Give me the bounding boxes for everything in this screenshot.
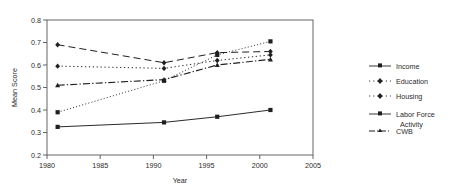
data-point-square <box>162 120 166 124</box>
data-point-square <box>56 125 60 129</box>
x-tick-label: 1985 <box>92 161 108 170</box>
data-point-square <box>268 108 272 112</box>
legend-marker-diamond <box>377 78 382 84</box>
legend-label-labor-force: Labor Force <box>396 110 435 119</box>
chart-svg: 0.8 0.7 0.6 0.5 0.4 0.3 0.2 Mean Score 1… <box>0 0 462 195</box>
x-axis-title: Year <box>173 176 188 185</box>
y-tick-label: 0.7 <box>31 38 41 47</box>
data-point-square <box>215 53 219 57</box>
y-axis-ticks <box>43 20 47 155</box>
legend-item-income[interactable]: Income <box>369 62 420 71</box>
plot-area-frame <box>47 20 313 155</box>
y-tick-label: 0.4 <box>31 106 41 115</box>
legend-label-housing: Housing <box>396 92 422 101</box>
chart-legend: Income Education Housing Labor Force Act… <box>369 62 435 136</box>
x-tick-label: 2000 <box>252 161 268 170</box>
y-tick-label: 0.6 <box>31 61 41 70</box>
y-axis-tick-labels: 0.8 0.7 0.6 0.5 0.4 0.3 0.2 <box>31 16 41 160</box>
x-tick-label: 1980 <box>39 161 55 170</box>
x-tick-label: 1990 <box>145 161 161 170</box>
legend-item-education[interactable]: Education <box>369 77 428 86</box>
y-tick-label: 0.3 <box>31 128 41 137</box>
data-point-square <box>268 39 272 43</box>
legend-marker-square <box>378 111 382 115</box>
x-axis-ticks <box>47 155 313 159</box>
data-point-square <box>215 115 219 119</box>
y-tick-label: 0.5 <box>31 83 41 92</box>
legend-label-education: Education <box>396 77 428 86</box>
legend-item-housing[interactable]: Housing <box>369 92 422 101</box>
data-point-square <box>56 110 60 114</box>
legend-marker-diamond <box>377 93 382 99</box>
y-axis-title: Mean Score <box>10 68 19 107</box>
legend-label-cwb: CWB <box>396 127 413 136</box>
legend-label-income: Income <box>396 62 420 71</box>
y-tick-label: 0.8 <box>31 16 41 25</box>
legend-marker-triangle <box>378 128 383 132</box>
legend-marker-square <box>378 63 382 67</box>
legend-item-cwb[interactable]: CWB <box>369 127 413 136</box>
y-tick-label: 0.2 <box>31 151 41 160</box>
x-axis-tick-labels: 1980 1985 1990 1995 2000 2005 <box>39 161 321 170</box>
line-chart-figure: 0.8 0.7 0.6 0.5 0.4 0.3 0.2 Mean Score 1… <box>0 0 462 195</box>
x-tick-label: 1995 <box>199 161 215 170</box>
x-tick-label: 2005 <box>305 161 321 170</box>
